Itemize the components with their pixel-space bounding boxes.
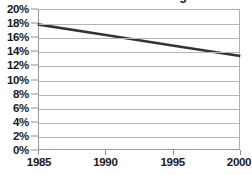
x-tick-mark xyxy=(173,150,174,155)
x-tick-label: 2000 xyxy=(227,156,251,168)
y-tick-mark xyxy=(31,121,38,122)
y-tick-mark xyxy=(31,9,38,10)
y-tick-label: 6% xyxy=(13,102,29,114)
y-tick-mark xyxy=(31,65,38,66)
gridline xyxy=(39,24,239,25)
y-tick-label: 4% xyxy=(13,116,29,128)
gridline xyxy=(39,66,239,67)
y-tick-mark xyxy=(31,135,38,136)
y-axis: 0%2%4%6%8%10%12%14%16%18%20% xyxy=(0,0,38,175)
gridline xyxy=(39,95,239,96)
y-tick-label: 2% xyxy=(13,130,29,142)
y-tick-mark xyxy=(31,51,38,52)
chart-figure: Percent of Labor Force Organized 0%2%4%6… xyxy=(0,0,252,175)
gridline xyxy=(39,137,239,138)
plot-area xyxy=(38,9,240,150)
x-tick-label: 1985 xyxy=(27,156,51,168)
gridline xyxy=(39,123,239,124)
x-tick-label: 1995 xyxy=(160,156,184,168)
gridline xyxy=(39,109,239,110)
data-line-svg xyxy=(39,10,239,149)
x-axis: 1985199019952000 xyxy=(0,150,252,175)
y-tick-label: 12% xyxy=(7,59,29,71)
gridline xyxy=(39,81,239,82)
y-tick-mark xyxy=(31,107,38,108)
x-tick-mark xyxy=(38,150,39,155)
y-tick-label: 18% xyxy=(7,17,29,29)
gridline xyxy=(39,38,239,39)
y-tick-mark xyxy=(31,23,38,24)
y-tick-mark xyxy=(31,79,38,80)
x-tick-mark xyxy=(240,150,241,155)
y-tick-mark xyxy=(31,93,38,94)
gridline xyxy=(39,52,239,53)
y-tick-label: 16% xyxy=(7,31,29,43)
y-tick-label: 14% xyxy=(7,45,29,57)
y-tick-label: 8% xyxy=(13,88,29,100)
y-tick-mark xyxy=(31,37,38,38)
y-tick-label: 20% xyxy=(7,3,29,15)
y-tick-label: 10% xyxy=(7,74,29,86)
x-tick-mark xyxy=(105,150,106,155)
x-tick-label: 1990 xyxy=(93,156,117,168)
